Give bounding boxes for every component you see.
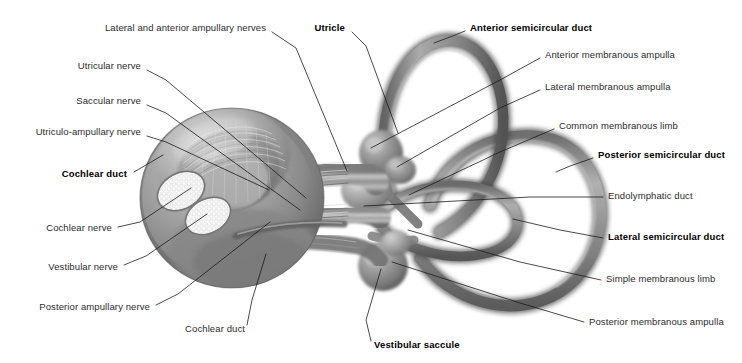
label-utricle: Utricle	[314, 22, 345, 33]
label-simple-membranous-limb: Simple membranous limb	[606, 273, 715, 284]
label-anterior-membranous-ampulla: Anterior membranous ampulla	[545, 49, 675, 60]
label-endolymphatic-duct: Endolymphatic duct	[608, 190, 693, 201]
label-cochlear-nerve: Cochlear nerve	[46, 222, 112, 233]
posterior-membranous-ampulla-shape	[381, 230, 411, 256]
label-vestibular-nerve: Vestibular nerve	[48, 261, 118, 272]
label-lateral-and-anterior-ampullary-nerves: Lateral and anterior ampullary nerves	[105, 22, 266, 33]
label-vestibular-saccule: Vestibular saccule	[374, 339, 460, 350]
label-posterior-semicircular-duct: Posterior semicircular duct	[598, 149, 725, 160]
label-lateral-membranous-ampulla: Lateral membranous ampulla	[545, 81, 671, 92]
label-lateral-semicircular-duct: Lateral semicircular duct	[608, 231, 724, 242]
label-posterior-ampullary-nerve: Posterior ampullary nerve	[39, 301, 150, 312]
label-saccular-nerve: Saccular nerve	[76, 95, 141, 106]
label-cochlear-duct-bold: Cochlear duct	[62, 168, 127, 179]
label-utricular-nerve: Utricular nerve	[78, 60, 141, 71]
anatomical-figure: Lateral and anterior ampullary nervesUtr…	[0, 0, 742, 363]
label-anterior-semicircular-duct: Anterior semicircular duct	[470, 22, 592, 33]
label-utriculo-ampullary-nerve: Utriculo-ampullary nerve	[36, 126, 141, 137]
label-cochlear-duct-plain: Cochlear duct	[185, 323, 245, 334]
label-common-membranous-limb: Common membranous limb	[559, 120, 678, 131]
label-posterior-membranous-ampulla: Posterior membranous ampulla	[589, 316, 724, 327]
